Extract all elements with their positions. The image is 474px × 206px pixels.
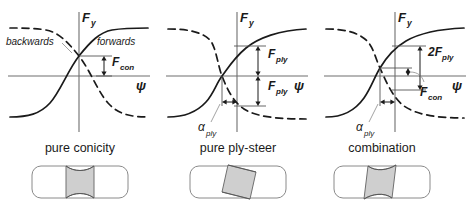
two-f-ply-label-sub: ply (441, 53, 454, 62)
y-axis-label: F (240, 10, 249, 25)
x-axis-label: ψ (294, 78, 304, 93)
alpha-ply-leader (211, 104, 220, 122)
y-axis-label-sub: y (248, 18, 255, 28)
alpha-ply-label: α (198, 120, 206, 134)
f-ply-lower-label: F (268, 79, 276, 93)
y-axis-label-sub: y (406, 18, 413, 28)
alpha-ply-leader (369, 104, 378, 122)
x-axis-label: ψ (452, 78, 462, 93)
f-ply-upper-label-sub: ply (275, 55, 288, 64)
f-con-label-sub: con (428, 93, 442, 102)
f-con-label-sub: con (120, 63, 134, 72)
backwards-label: backwards (6, 36, 54, 47)
f-con-label: F (112, 55, 120, 69)
two-f-ply-arrow (417, 46, 422, 90)
f-ply-lower-label-sub: ply (275, 87, 288, 96)
x-axis-label: ψ (136, 78, 146, 93)
f-con-label: F (420, 85, 428, 99)
alpha-ply-label-sub: ply (363, 129, 375, 138)
backwards-leader (62, 43, 72, 53)
forwards-label: forwards (97, 36, 135, 47)
f-ply-upper-arrow (255, 46, 260, 76)
y-axis-label: F (398, 10, 407, 25)
f-con-arrow (406, 68, 411, 76)
f-con-leader (410, 72, 424, 82)
alpha-ply-label: α (356, 120, 364, 134)
alpha-ply-label-sub: ply (205, 129, 217, 138)
tyre-force-figure: F con F y ψ backwards forwards (0, 0, 474, 206)
alpha-ply-arrow (380, 99, 395, 104)
two-f-ply-label: 2F (427, 45, 443, 59)
f-con-arrow (101, 56, 106, 76)
panel-pure-conicity: F con F y ψ backwards forwards (0, 0, 158, 206)
panel-combination: 2F ply F con α ply F y ψ (316, 0, 474, 206)
f-ply-upper-label: F (268, 47, 276, 61)
panel-pure-ply-steer: F ply F ply α ply F y ψ (158, 0, 316, 206)
f-ply-lower-arrow (255, 76, 260, 106)
y-axis-label-sub: y (90, 18, 97, 28)
y-axis-label: F (82, 10, 91, 25)
